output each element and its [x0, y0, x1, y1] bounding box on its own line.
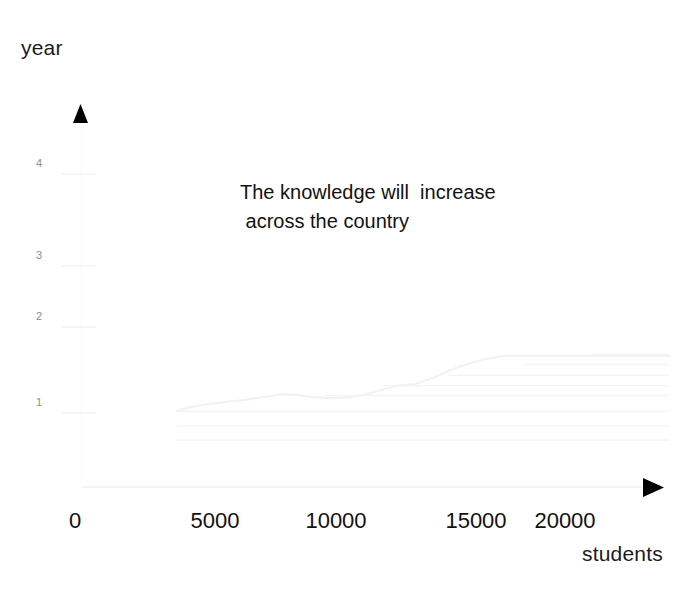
right-triangle-arrow-icon [643, 478, 664, 497]
up-triangle-arrow-icon [73, 104, 88, 123]
plot-area [0, 0, 698, 602]
chart-page: year students The knowledge will increas… [0, 0, 698, 602]
y-tick-marks-group [62, 174, 96, 413]
axis-lines-group [81, 128, 646, 487]
gridlines-group [177, 354, 670, 440]
